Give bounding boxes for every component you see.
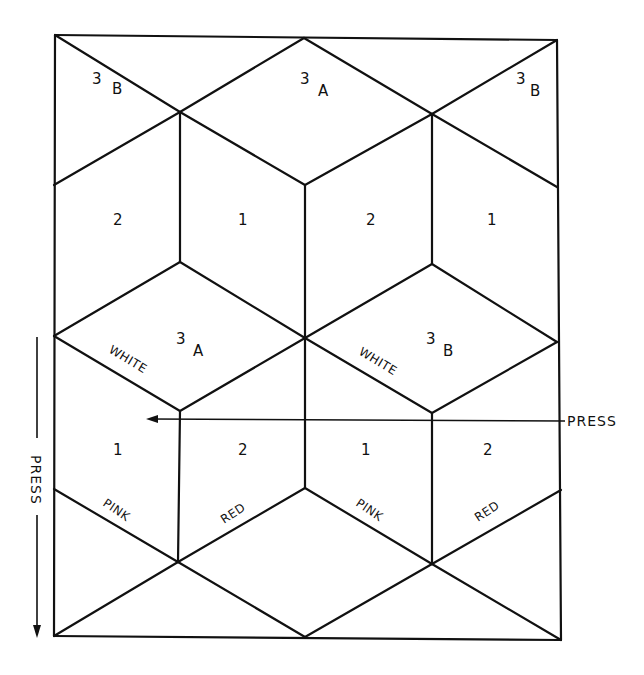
piece-variant: B (530, 82, 540, 100)
row-lower-sides: 1 PINK 2 RED 1 PINK 2 RED (100, 441, 502, 527)
piece-number: 1 (238, 211, 248, 229)
press-label-horizontal: PRESS (567, 413, 617, 429)
row-top-triangles: 3 B 3 A 3 B (92, 70, 540, 100)
piece-number: 2 (366, 211, 376, 229)
piece-number: 3 (516, 70, 526, 88)
edge-label-red: RED (472, 498, 502, 524)
piece-variant: B (112, 80, 122, 98)
press-arrow-vertical: PRESS (28, 337, 44, 638)
piece-variant: B (443, 342, 453, 360)
piece-number: 1 (361, 441, 371, 459)
piece-variant: A (318, 82, 329, 100)
piece-number: 2 (238, 441, 248, 459)
press-label-vertical: PRESS (28, 455, 44, 505)
piece-number: 1 (113, 441, 123, 459)
vertical-seams (178, 112, 432, 564)
piece-number: 3 (92, 70, 102, 88)
piece-number: 3 (176, 330, 186, 348)
row-middle-tops: 3 A WHITE 3 B WHITE (106, 330, 453, 378)
piece-number: 1 (487, 211, 497, 229)
quilt-block-diagram: 3 B 3 A 3 B 2 1 2 1 3 A WHITE 3 B WHITE … (0, 0, 644, 675)
diagonal-seams (54, 35, 561, 640)
piece-number: 3 (426, 330, 436, 348)
piece-number: 3 (300, 70, 310, 88)
arrow-down-icon (33, 625, 41, 638)
piece-number: 2 (113, 211, 123, 229)
piece-variant: A (193, 342, 204, 360)
arrow-left-icon (146, 415, 158, 423)
piece-number: 2 (483, 441, 493, 459)
press-arrow-horizontal: PRESS (146, 413, 617, 429)
